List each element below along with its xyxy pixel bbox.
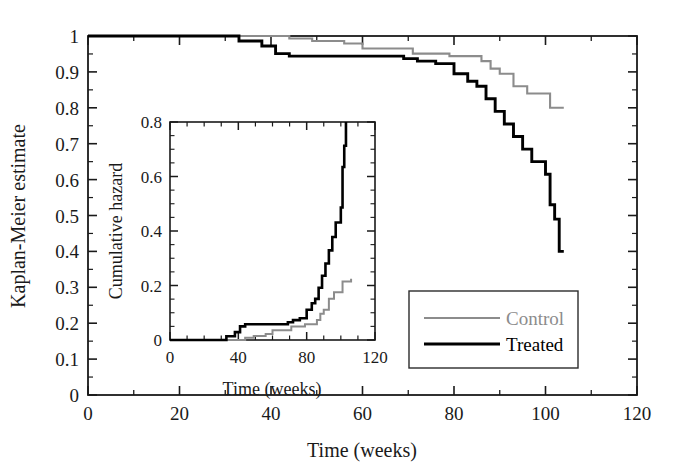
x-tick-label: 60	[353, 403, 372, 424]
x-tick-label: 100	[531, 403, 560, 424]
x-tick-label: 80	[445, 403, 464, 424]
legend-label-control: Control	[506, 308, 564, 329]
inset-x-tick-label: 40	[230, 348, 247, 367]
y-tick-label: 0.9	[55, 62, 79, 83]
x-tick-label: 0	[83, 403, 93, 424]
inset-y-tick-label: 0	[154, 331, 163, 350]
x-tick-label: 20	[170, 403, 189, 424]
y-tick-label: 0.6	[55, 170, 79, 191]
y-tick-label: 0.3	[55, 277, 79, 298]
main-x-axis-title: Time (weeks)	[307, 439, 417, 462]
inset-x-tick-label: 0	[166, 348, 175, 367]
x-tick-label: 40	[262, 403, 281, 424]
y-tick-label: 0.2	[55, 313, 79, 334]
y-tick-label: 0.7	[55, 134, 79, 155]
legend-box	[409, 291, 578, 368]
legend-label-treated: Treated	[506, 334, 564, 355]
inset-y-tick-label: 0.2	[141, 277, 162, 296]
y-tick-label: 0.4	[55, 241, 79, 262]
y-tick-label: 0.8	[55, 98, 79, 119]
x-tick-label: 120	[623, 403, 652, 424]
kaplan-meier-figure: 020406080100120 00.10.20.30.40.50.60.70.…	[0, 0, 677, 470]
y-tick-label: 0	[70, 385, 80, 406]
inset-y-axis-title: Cumulative hazard	[106, 163, 126, 299]
main-y-axis-title: Kaplan-Meier estimate	[7, 124, 30, 308]
inset-y-tick-label: 0.8	[141, 113, 162, 132]
legend: ControlTreated	[409, 291, 578, 368]
plot-canvas: 020406080100120 00.10.20.30.40.50.60.70.…	[0, 0, 677, 470]
inset-y-tick-label: 0.6	[141, 168, 162, 187]
inset-x-tick-label: 80	[298, 348, 315, 367]
inset-x-axis-title: Time (weeks)	[223, 379, 322, 400]
y-tick-label: 1	[70, 26, 80, 47]
y-tick-label: 0.1	[55, 349, 79, 370]
inset-y-tick-label: 0.4	[141, 222, 163, 241]
y-tick-label: 0.5	[55, 206, 79, 227]
inset-x-tick-label: 120	[362, 348, 388, 367]
